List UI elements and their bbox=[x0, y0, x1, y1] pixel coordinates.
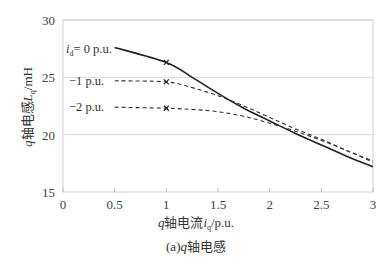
series-label-minus1: −1 p.u. bbox=[69, 74, 104, 88]
series-label-id0: id= 0 p.u. bbox=[66, 42, 112, 58]
figure-caption: (a)q轴电感 bbox=[0, 236, 392, 255]
series-line-0 bbox=[115, 48, 373, 167]
gridlines bbox=[63, 20, 373, 135]
y-tick-label: 20 bbox=[42, 128, 55, 143]
x-tick-label: 1.5 bbox=[210, 197, 226, 212]
y-tick-label: 15 bbox=[42, 185, 55, 200]
x-tick-label: 2.5 bbox=[313, 197, 329, 212]
x-tick-label: 3 bbox=[370, 197, 377, 212]
y-tick-label: 30 bbox=[42, 13, 55, 28]
x-tick-label: 0 bbox=[60, 197, 67, 212]
x-axis-title: q轴电流iq/p.u. bbox=[0, 212, 392, 232]
x-tick-label: 2 bbox=[266, 197, 273, 212]
series-line-1 bbox=[115, 81, 373, 161]
y-axis-title: q轴电感Lq/mH bbox=[17, 67, 37, 147]
series-label-minus2: −2 p.u. bbox=[69, 100, 104, 114]
x-tick-label: 0.5 bbox=[107, 197, 123, 212]
series-lines bbox=[115, 48, 373, 167]
x-tick-label: 1 bbox=[163, 197, 170, 212]
y-tick-label: 25 bbox=[42, 70, 55, 85]
